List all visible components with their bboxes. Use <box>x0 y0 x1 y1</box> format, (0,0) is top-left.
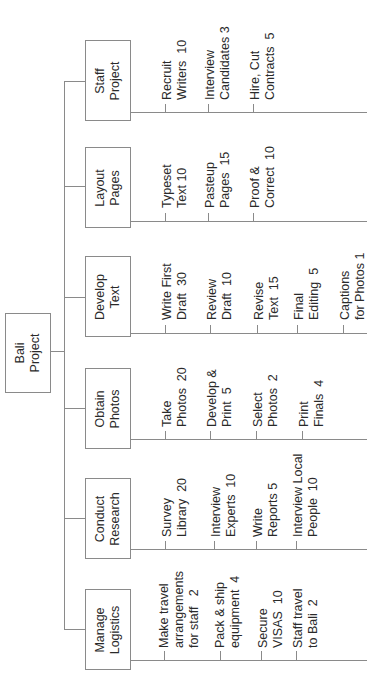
root-node-bali-project: Bali Project <box>5 313 51 393</box>
category-node-layout-pages: Layout Pages <box>85 147 131 228</box>
category-node-conduct-research: Conduct Research <box>85 478 131 559</box>
connector-staff-project <box>64 81 85 82</box>
task-tick <box>208 104 209 112</box>
task-survey-library: Survey Library 20 <box>160 478 190 537</box>
root-node-label: Bali Project <box>13 334 43 373</box>
task-develop-print: Develop & Print 5 <box>205 369 235 427</box>
task-revise-text: Revise Text 15 <box>252 276 282 320</box>
task-interview-experts: Interview Experts 10 <box>209 474 239 537</box>
connector-obtain-photos <box>64 408 85 409</box>
task-make-travel-arrangements: Make travel arrangements for staff 2 <box>157 571 202 648</box>
task-tick <box>208 213 209 221</box>
task-tick <box>214 541 215 549</box>
task-interview-candidates: Interview Candidates 3 <box>203 26 233 100</box>
connector-develop-text <box>64 297 85 298</box>
task-tick <box>343 325 344 333</box>
task-tick <box>220 651 221 660</box>
category-label: Manage Logistics <box>93 605 123 654</box>
task-tick <box>296 541 297 549</box>
task-final-editing: Final Editing 5 <box>292 268 322 320</box>
task-write-first-draft: Write First Draft 30 <box>160 263 190 320</box>
connector-manage-logistics <box>64 629 85 630</box>
task-typeset-text: Typeset Text 10 <box>160 164 190 208</box>
task-tick <box>296 651 297 660</box>
task-write-reports: Write Reports 5 <box>251 483 281 537</box>
task-captions-for-photos: Captions for Photos 1 <box>338 253 368 320</box>
task-rail-staff-project <box>131 112 367 113</box>
task-review-draft: Review Draft 10 <box>205 272 235 320</box>
task-tick <box>210 431 211 439</box>
task-tick <box>165 325 166 333</box>
task-tick <box>165 104 166 112</box>
category-label: Layout Pages <box>93 169 123 207</box>
task-rail-develop-text <box>131 333 367 334</box>
task-tick <box>165 541 166 549</box>
task-interview-local-people: Interview Local People 10 <box>291 454 321 537</box>
category-label: Develop Text <box>93 274 123 320</box>
connector-conduct-research <box>64 518 85 519</box>
task-tick <box>261 651 262 660</box>
task-print-finals: Print Finals 4 <box>297 380 327 427</box>
task-tick <box>165 431 166 439</box>
connector-layout-pages <box>64 186 85 187</box>
task-tick <box>253 104 254 112</box>
spine-line <box>64 81 65 630</box>
task-tick <box>256 431 257 439</box>
task-rail-conduct-research <box>131 549 367 550</box>
task-tick <box>253 213 254 221</box>
task-rail-obtain-photos <box>131 439 367 440</box>
task-hire-cut-contracts: Hire, Cut Contracts 5 <box>248 33 278 100</box>
category-label: Obtain Photos <box>93 389 123 428</box>
category-label: Staff Project <box>93 61 123 100</box>
task-secure-visas: Secure VISAS 10 <box>256 590 286 648</box>
task-tick <box>210 325 211 333</box>
task-pack-ship-equipment: Pack & ship equipment 4 <box>213 576 243 648</box>
task-tick <box>297 325 298 333</box>
category-node-obtain-photos: Obtain Photos <box>85 368 131 449</box>
category-node-staff-project: Staff Project <box>85 40 131 121</box>
root-connector <box>51 351 65 352</box>
task-proof-correct: Proof & Correct 10 <box>248 146 278 208</box>
task-select-photos: Select Photos 2 <box>251 374 281 427</box>
category-node-manage-logistics: Manage Logistics <box>85 589 131 670</box>
task-tick <box>256 541 257 549</box>
task-tick <box>257 325 258 333</box>
task-recruit-writers: Recruit Writers 10 <box>160 40 190 100</box>
task-pasteup-pages: Pasteup Pages 15 <box>203 152 233 208</box>
task-rail-layout-pages <box>131 221 367 222</box>
task-take-photos: Take Photos 20 <box>160 367 190 427</box>
task-staff-travel-to-bali: Staff travel to Bali 2 <box>291 588 321 648</box>
task-tick <box>165 213 166 221</box>
task-tick <box>302 431 303 439</box>
category-node-develop-text: Develop Text <box>85 256 131 337</box>
category-label: Conduct Research <box>93 492 123 546</box>
task-rail-manage-logistics <box>131 660 367 661</box>
task-tick <box>164 651 165 660</box>
